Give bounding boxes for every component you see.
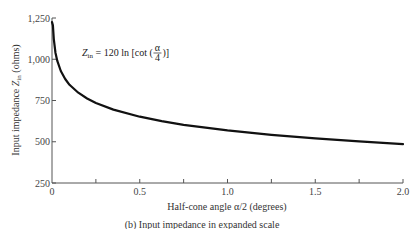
formula-annotation: Zin = 120 ln [cot ( [82,47,153,60]
formula-closing: )] [162,47,169,59]
x-axis-ticks: 00.51.01.52.0 [50,179,410,197]
x-tick-label: 0 [50,186,55,197]
figure-caption: (b) Input impedance in expanded scale [125,219,280,229]
formula-fraction: α 4 )] [153,42,169,63]
impedance-chart: 2505007501,0001,250 00.51.01.52.0 Zin = … [0,0,420,229]
y-tick-label: 1,250 [28,13,51,24]
y-tick-label: 750 [35,95,50,106]
x-tick-label: 1.0 [221,186,234,197]
fraction-denominator: 4 [155,52,160,63]
x-tick-label: 0.5 [134,186,147,197]
impedance-curve [52,22,403,144]
y-axis-label: Input impedance Zin (ohms) [10,44,23,155]
y-tick-label: 500 [35,136,50,147]
y-tick-label: 1,000 [28,54,51,65]
y-tick-label: 250 [35,178,50,189]
axes [52,18,403,183]
x-tick-label: 1.5 [309,186,322,197]
x-axis-label: Half-cone angle α/2 (degrees) [167,201,286,213]
x-tick-label: 2.0 [397,186,410,197]
